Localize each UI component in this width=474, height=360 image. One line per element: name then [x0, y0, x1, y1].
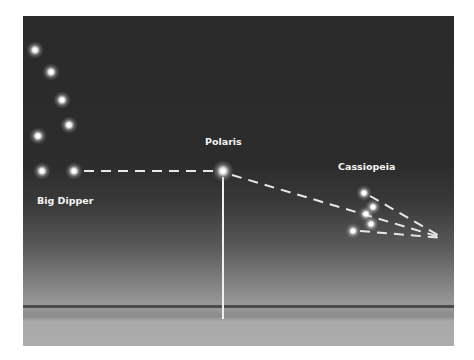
cassiopeia-label: Cassiopeia — [338, 161, 395, 172]
big-dipper-star-icon-core — [60, 98, 64, 102]
star-map — [23, 16, 454, 346]
cassiopeia-star-icon-core — [364, 212, 368, 216]
cassiopeia-star-icon-core — [351, 229, 355, 233]
big-dipper-star-icon-core — [49, 70, 53, 74]
big-dipper-star-icon-core — [33, 48, 37, 52]
cassiopeia-line-top — [370, 196, 443, 238]
polaris-cassiopeia-line — [232, 175, 443, 238]
stars-group — [26, 41, 381, 239]
big-dipper-star-icon-core — [36, 134, 40, 138]
horizon-line — [23, 305, 454, 308]
big-dipper-star-icon-core — [40, 169, 44, 173]
cassiopeia-star-icon-core — [362, 191, 366, 195]
polaris-label: Polaris — [205, 136, 242, 147]
cassiopeia-star-icon-core — [369, 222, 373, 226]
polaris-star-icon-core — [221, 169, 225, 173]
big-dipper-star-icon-core — [67, 123, 71, 127]
night-sky-diagram: Big Dipper Polaris Cassiopeia — [23, 16, 454, 346]
big-dipper-star-icon-core — [72, 169, 76, 173]
big-dipper-label: Big Dipper — [37, 195, 93, 206]
